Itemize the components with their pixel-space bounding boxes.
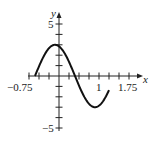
x-axis-label: x — [142, 73, 148, 85]
y-max-label: 5 — [48, 18, 54, 30]
y-min-label: −5 — [42, 122, 54, 134]
plot-canvas: −0.75 1 1.75 x y 5 −5 — [0, 0, 158, 142]
y-axis-arrow-icon — [57, 12, 62, 18]
x-max-label: 1.75 — [118, 81, 138, 93]
x-min-label: −0.75 — [7, 81, 33, 93]
x-one-label: 1 — [96, 81, 102, 93]
